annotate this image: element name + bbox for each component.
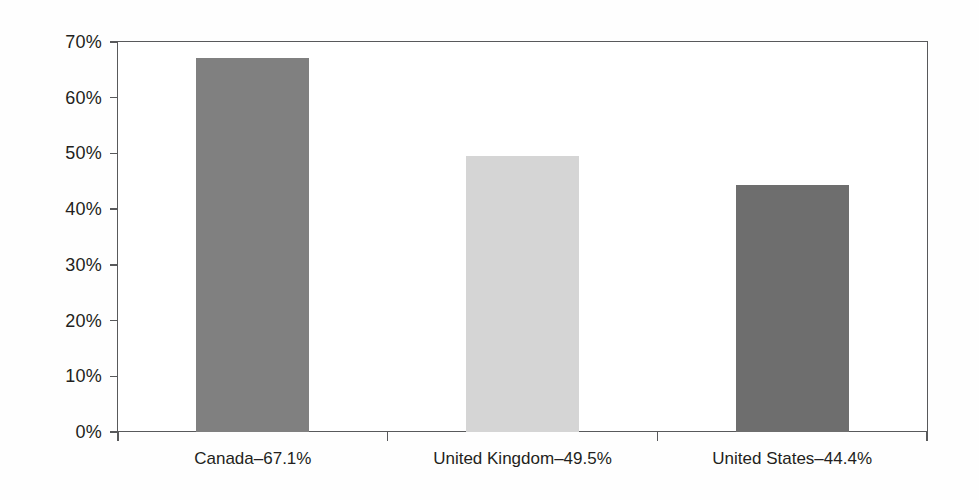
y-tick-mark	[110, 41, 118, 43]
y-tick-mark	[110, 376, 118, 378]
y-tick-mark	[110, 97, 118, 99]
y-tick-label: 70%	[0, 33, 102, 51]
y-axis: 70% 60% 50% 40% 30% 20% 10% 0%	[0, 0, 102, 500]
x-tick-mark	[117, 432, 119, 441]
x-tick-mark	[926, 432, 928, 441]
bar-united-kingdom[interactable]	[466, 156, 579, 432]
x-tick-label-united-kingdom: United Kingdom–49.5%	[388, 449, 658, 469]
y-tick-mark	[110, 208, 118, 210]
y-tick-label: 50%	[0, 144, 102, 162]
y-tick-label: 30%	[0, 256, 102, 274]
x-tick-label-united-states: United States–44.4%	[657, 449, 927, 469]
x-tick-label-canada: Canada–67.1%	[118, 449, 388, 469]
x-tick-mark	[387, 432, 389, 441]
bars-layer	[118, 42, 927, 432]
y-tick-mark	[110, 320, 118, 322]
y-tick-label: 40%	[0, 200, 102, 218]
bar-united-states[interactable]	[736, 185, 849, 432]
y-tick-label: 10%	[0, 367, 102, 385]
y-tick-mark	[110, 264, 118, 266]
bar-chart: 70% 60% 50% 40% 30% 20% 10% 0% Canada–67…	[0, 0, 979, 500]
y-tick-label: 60%	[0, 89, 102, 107]
x-tick-mark	[657, 432, 659, 441]
y-tick-label: 0%	[0, 423, 102, 441]
y-tick-label: 20%	[0, 312, 102, 330]
y-tick-mark	[110, 153, 118, 155]
bar-canada[interactable]	[196, 58, 309, 432]
